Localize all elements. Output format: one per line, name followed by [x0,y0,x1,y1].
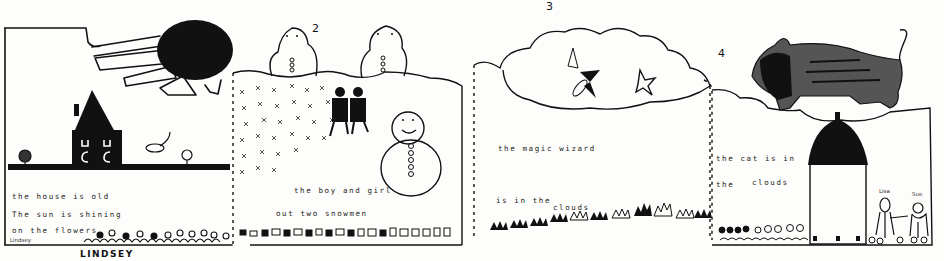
star-icon [636,70,655,95]
snowman-icon [392,112,424,144]
sun-ray [205,80,221,94]
grass-row [490,203,712,230]
author-signature: LINDSEY [80,249,134,259]
panel-1-line-3: on the flowers [12,226,98,235]
panel-1-border [5,28,100,47]
sun-icon [157,20,233,80]
panel-1-line-1: the house is old [12,192,110,201]
panel-4-line-2: the [716,180,734,189]
shape-row [240,228,450,236]
house-icon [810,164,866,244]
ground [8,164,230,170]
panel-3-line-2: is in the [496,196,551,205]
panel-2-line-2: out two snowmen [276,209,368,218]
snowman-icon [361,26,407,78]
panel-1-small-name: Lindsey [10,237,31,243]
panel-1-line-2: The sun is shining [12,210,122,219]
panel-3-line-3: clouds [553,203,590,212]
house-roof [75,90,115,132]
panel-2-line-1: the boy and girl [294,186,392,195]
flower-row [84,230,229,242]
panel-4-line-3: clouds [752,178,789,187]
snow-field [240,84,334,174]
panel-2-number: 2 [312,22,319,35]
cat-icon [752,39,902,111]
children-figures [330,87,368,136]
panel-3-line-1: the magic wizard [498,144,596,153]
wizard-icon [568,48,600,98]
panel-3-number: 3 [546,0,553,13]
panel-4-number: 4 [718,47,725,60]
house-icon [72,130,122,164]
flower-row [719,225,927,245]
cloud-icon [712,90,932,245]
figure-label-sue: Sue [912,191,922,197]
panel-4-line-1: the cat is in [716,154,796,163]
drawing-canvas [0,0,944,261]
girl-figures [876,198,928,238]
figure-label-lisa: Lisa [879,188,890,194]
